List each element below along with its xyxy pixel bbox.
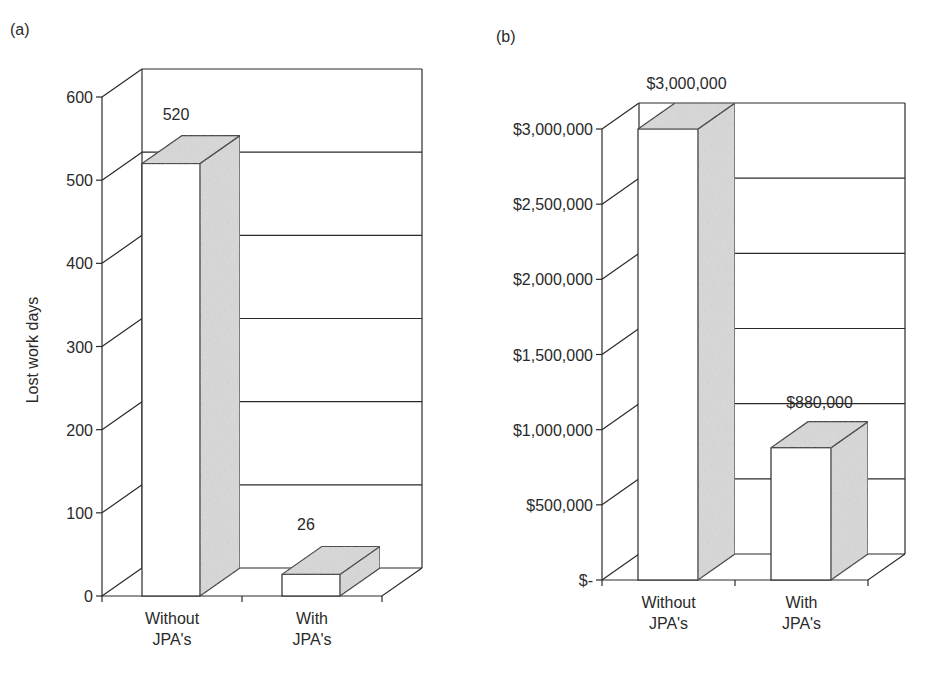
bar-without-jpas: $3,000,000 xyxy=(638,75,735,580)
x-category-label: Without xyxy=(145,610,200,627)
bar-side-face xyxy=(698,103,735,580)
data-label: 26 xyxy=(297,516,315,533)
y-tick-label: $500,000 xyxy=(526,497,593,514)
gridline-diagonal xyxy=(602,329,639,355)
y-tick-label: $1,000,000 xyxy=(513,422,593,439)
gridline-diagonal xyxy=(102,152,142,180)
bar-side-face xyxy=(831,422,868,580)
x-category-label: With xyxy=(786,594,818,611)
data-label: 520 xyxy=(163,106,190,123)
x-category-label: JPA's xyxy=(292,631,331,648)
gridline-diagonal xyxy=(602,103,639,129)
x-category-label: JPA's xyxy=(782,615,821,632)
y-tick-label: $1,500,000 xyxy=(513,347,593,364)
chart-a-lost-work-days: 0100200300400500600520WithoutJPA's26With… xyxy=(66,69,422,648)
y-tick-label: 200 xyxy=(66,422,93,439)
bar-front-face xyxy=(638,129,698,580)
data-label: $880,000 xyxy=(786,394,853,411)
bar-side-face xyxy=(200,136,240,596)
bar-front-face xyxy=(142,164,200,596)
y-tick-label: 600 xyxy=(66,89,93,106)
x-category-label: With xyxy=(296,610,328,627)
gridline-diagonal xyxy=(602,554,639,580)
y-tick-label: 100 xyxy=(66,505,93,522)
y-tick-label: $2,500,000 xyxy=(513,196,593,213)
gridline-diagonal xyxy=(102,319,142,347)
y-tick-label: 400 xyxy=(66,255,93,272)
y-tick-label: 500 xyxy=(66,172,93,189)
gridline-diagonal xyxy=(602,253,639,279)
bar-with-jpas: $880,000 xyxy=(771,394,868,580)
gridline-diagonal xyxy=(602,479,639,505)
gridline-diagonal xyxy=(102,568,142,596)
y-axis-title: Lost work days xyxy=(24,297,41,404)
y-tick-label: 0 xyxy=(84,588,93,605)
panel-b: (b) $-$500,000$1,000,000$1,500,000$2,000… xyxy=(496,28,905,632)
bar-front-face xyxy=(771,448,831,580)
x-category-label: Without xyxy=(641,594,696,611)
gridline-diagonal xyxy=(602,178,639,204)
chart-b-cost: $-$500,000$1,000,000$1,500,000$2,000,000… xyxy=(513,75,905,632)
gridline-diagonal xyxy=(102,69,142,97)
gridline-diagonal xyxy=(102,402,142,430)
bar-without-jpas: 520 xyxy=(142,106,240,596)
x-category-label: JPA's xyxy=(649,615,688,632)
y-tick-label: $3,000,000 xyxy=(513,121,593,138)
panel-a: (a) 0100200300400500600520WithoutJPA's26… xyxy=(10,21,422,648)
gridline-diagonal xyxy=(602,404,639,430)
panel-b-label: (b) xyxy=(496,28,516,45)
panel-a-label: (a) xyxy=(10,21,30,38)
gridline-diagonal xyxy=(102,235,142,263)
gridline-diagonal xyxy=(102,485,142,513)
y-tick-label: 300 xyxy=(66,339,93,356)
y-tick-label: $- xyxy=(579,572,593,589)
chart-canvas: (a) 0100200300400500600520WithoutJPA's26… xyxy=(0,0,931,675)
x-category-label: JPA's xyxy=(152,631,191,648)
y-tick-label: $2,000,000 xyxy=(513,271,593,288)
bar-with-jpas: 26 xyxy=(282,516,380,596)
data-label: $3,000,000 xyxy=(646,75,726,92)
bar-front-face xyxy=(282,574,340,596)
